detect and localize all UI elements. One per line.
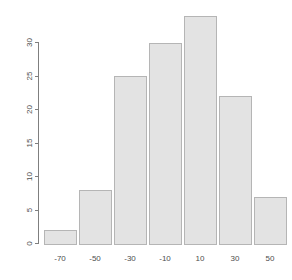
y-axis-tick-label: 30 [25, 38, 34, 47]
histogram-bar [45, 231, 77, 244]
histogram-bar [220, 97, 252, 244]
x-axis-tick-label: 10 [196, 254, 205, 263]
x-axis-tick-label: -30 [124, 254, 136, 263]
x-axis-tick-label: -70 [54, 254, 66, 263]
y-axis-tick-label: 10 [25, 172, 34, 181]
y-axis-tick-label: 15 [25, 138, 34, 147]
y-axis-tick-label: 5 [25, 207, 34, 212]
x-axis-tick-label: -10 [159, 254, 171, 263]
histogram-bar [115, 77, 147, 245]
y-axis-tick-label: 25 [25, 71, 34, 80]
y-axis-tick-label: 20 [25, 105, 34, 114]
histogram-plot: 051015202530 -70-50-30-10103050 [0, 0, 292, 280]
x-axis-tick-label: -50 [89, 254, 101, 263]
plot-canvas: 051015202530 -70-50-30-10103050 [0, 0, 292, 280]
y-axis-tick-label: 0 [25, 241, 34, 246]
x-axis-tick-label: 30 [231, 254, 240, 263]
histogram-bar [255, 197, 287, 244]
histogram-bar [80, 190, 112, 244]
histogram-bar [185, 16, 217, 244]
histogram-bar [150, 43, 182, 244]
x-axis-tick-label: 50 [266, 254, 275, 263]
